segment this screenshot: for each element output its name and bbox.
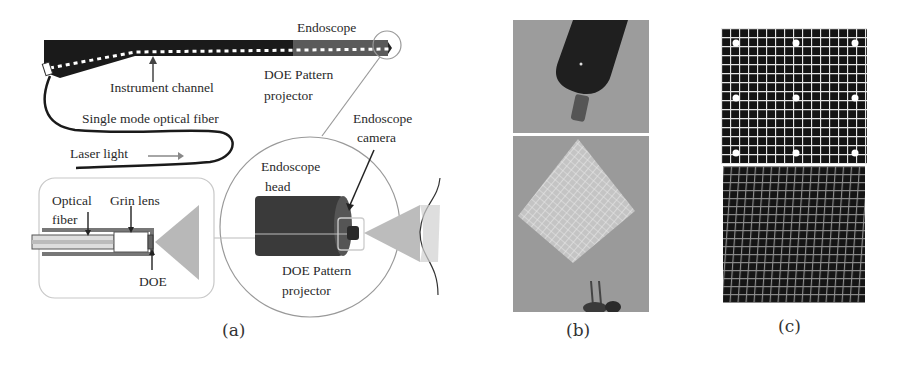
label-grin-lens: Grin lens: [110, 193, 160, 208]
label-optical-fiber-2: fiber: [52, 212, 77, 227]
inset-projection-cone: [155, 205, 199, 280]
label-endoscope: Endoscope: [297, 20, 356, 35]
label-doe-projector-top-2: projector: [264, 88, 313, 103]
projected-pattern-photo: [513, 136, 649, 312]
endoscope-tip-end: [388, 42, 392, 54]
doe-element: [148, 235, 153, 249]
grid-pattern-captured: [723, 166, 865, 303]
caption-c: (c): [778, 316, 801, 336]
grid-pattern-reference: [721, 28, 867, 164]
label-single-mode-fiber: Single mode optical fiber: [82, 111, 219, 126]
label-doe-projector-top-1: DOE Pattern: [264, 67, 333, 82]
grin-lens: [114, 232, 148, 252]
doe-projector-nozzle: [347, 226, 359, 240]
endoscope-body: [44, 40, 295, 78]
label-doe-projector-bottom-1: DOE Pattern: [282, 263, 351, 278]
panel-a: Endoscope Instrument channel DOE Pattern…: [0, 0, 450, 368]
caption-a: (a): [222, 320, 245, 340]
label-doe-projector-bottom-2: projector: [282, 283, 331, 298]
panel-b: (b): [513, 20, 649, 312]
label-optical-fiber-1: Optical: [52, 193, 92, 208]
endoscope-system-diagram: [0, 0, 450, 320]
panel-c: (c): [721, 28, 867, 304]
caption-b: (b): [566, 320, 590, 340]
endoscope-photo-top: [513, 20, 649, 133]
endoscope-head-cylinder: [255, 196, 343, 256]
label-endoscope-camera-1: Endoscope: [353, 111, 412, 126]
label-endoscope-head-1: Endoscope: [261, 159, 320, 174]
label-doe: DOE: [139, 274, 167, 289]
instrument-channel-arrow-icon: [149, 56, 157, 64]
laser-arrow-icon: [178, 152, 184, 160]
projection-cone: [364, 205, 420, 262]
label-endoscope-head-2: head: [265, 179, 290, 194]
label-endoscope-camera-2: camera: [357, 130, 396, 145]
label-instrument-channel: Instrument channel: [110, 80, 214, 95]
label-laser-light: Laser light: [70, 146, 128, 161]
